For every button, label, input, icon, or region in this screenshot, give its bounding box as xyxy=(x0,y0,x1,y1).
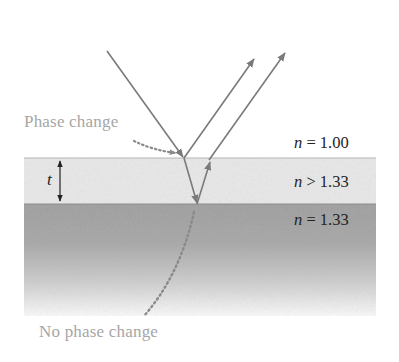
film-index-variable: n xyxy=(294,172,302,191)
film-index-label: n > 1.33 xyxy=(294,172,349,192)
water-index-variable: n xyxy=(294,210,302,229)
film-index-value: > 1.33 xyxy=(302,172,348,191)
phase-change-pointer xyxy=(134,141,176,153)
incident-ray xyxy=(107,51,183,157)
thin-film-diagram: Phase change No phase change t n = 1.00 … xyxy=(0,0,399,362)
reflected-ray-top xyxy=(184,59,254,158)
air-index-value: = 1.00 xyxy=(302,133,348,152)
air-index-variable: n xyxy=(294,133,302,152)
water-index-label: n = 1.33 xyxy=(294,210,349,230)
phase-change-label: Phase change xyxy=(24,112,118,132)
no-phase-change-label: No phase change xyxy=(39,322,158,342)
air-index-label: n = 1.00 xyxy=(294,133,349,153)
thickness-label: t xyxy=(47,170,52,190)
water-index-value: = 1.33 xyxy=(302,210,348,229)
